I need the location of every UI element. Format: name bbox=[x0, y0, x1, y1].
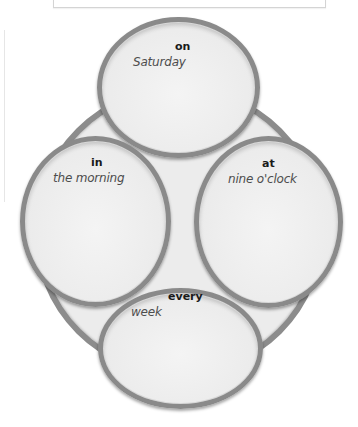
bubble-bottom-phrase: week bbox=[131, 306, 162, 318]
left-margin-rule bbox=[4, 30, 5, 202]
bubble-left-phrase: the morning bbox=[53, 172, 124, 184]
bubble-bottom[interactable] bbox=[98, 288, 263, 409]
top-text-box bbox=[53, 0, 326, 8]
bubble-top-phrase: Saturday bbox=[133, 56, 186, 68]
bubble-left-preposition: in bbox=[91, 157, 103, 168]
bubble-top[interactable] bbox=[97, 17, 260, 158]
bubble-bottom-preposition: every bbox=[168, 291, 203, 302]
bubble-right-phrase: nine o'clock bbox=[228, 173, 297, 185]
bubble-top-preposition: on bbox=[175, 41, 190, 52]
bubble-right-preposition: at bbox=[262, 158, 275, 169]
